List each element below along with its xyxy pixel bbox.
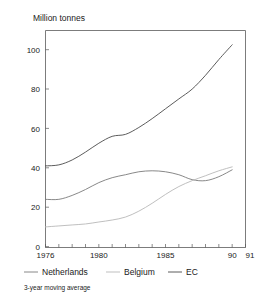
legend-label-belgium: Belgium (124, 267, 155, 277)
y-tick-label-20: 20 (31, 203, 40, 212)
y-tick-label-60: 60 (31, 125, 40, 134)
legend-label-netherlands: Netherlands (42, 267, 88, 277)
y-tick-label-100: 100 (27, 46, 41, 55)
x-tick-label-1990: 90 (228, 251, 237, 260)
chart-title: Million tonnes (33, 13, 85, 23)
x-tick-label-1980: 1980 (90, 251, 108, 260)
y-tick-label-80: 80 (31, 85, 40, 94)
y-tick-label-40: 40 (31, 164, 40, 173)
x-tick-label-1985: 1985 (157, 251, 175, 260)
x-tick-label-1991: 91 (246, 251, 255, 260)
footnote-moving-average: 3-year moving average (24, 284, 91, 292)
line-chart-figure: Million tonnes 100 80 60 40 20 0 1976 19… (0, 0, 264, 303)
x-tick-label-1976: 1976 (37, 251, 55, 260)
legend-label-ec: EC (186, 267, 198, 277)
